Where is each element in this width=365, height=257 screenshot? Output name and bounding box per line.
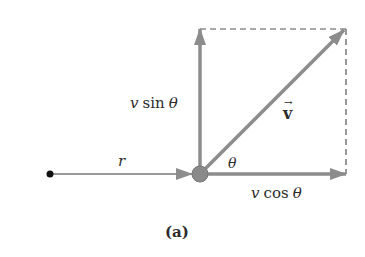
origin-dot	[47, 171, 54, 178]
particle	[192, 166, 208, 182]
svg-text:→: →	[284, 97, 293, 108]
vertical-component-label: vsinθ	[130, 94, 178, 112]
angle-label: θ	[228, 155, 237, 171]
velocity-arrow	[200, 30, 344, 174]
radius-label: r	[118, 152, 126, 170]
velocity-label: v →	[282, 97, 293, 123]
figure-caption: (a)	[165, 223, 189, 241]
horizontal-component-label: vcosθ	[251, 184, 302, 202]
circular-motion-diagram: r vsinθ vcosθ v → θ (a)	[0, 0, 365, 257]
